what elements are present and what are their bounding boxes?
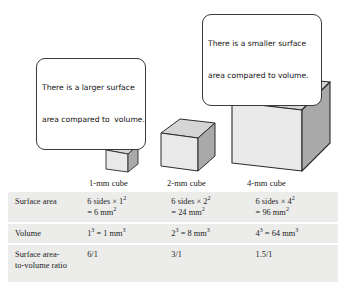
cell-exponent: 2	[123, 195, 126, 201]
cell-exponent: 2	[202, 206, 205, 212]
cell-exponent: 3	[295, 227, 298, 233]
cell-text: = 64 mm	[263, 229, 295, 238]
cell-exponent: 2	[292, 195, 295, 201]
cube-2mm	[158, 116, 218, 174]
cell-text: = 24 mm	[171, 208, 201, 217]
callout-left-line1: There is a larger surface	[42, 83, 140, 94]
cell-text: = 8 mm	[179, 229, 207, 238]
cell-text: 6 sides × 1	[87, 197, 123, 206]
cell-surface-area-1mm: 6 sides × 12 = 6 mm2	[87, 192, 171, 223]
cell-text: = 1 mm	[94, 229, 122, 238]
column-header-4mm-cube: 4-mm cube	[247, 178, 286, 188]
cell-text: 6 sides × 2	[171, 197, 207, 206]
cell-exponent: 2	[286, 206, 289, 212]
cube-1mm-front	[106, 150, 128, 172]
row-label-line2: to-volume ratio	[15, 261, 67, 270]
callout-right-line2: area compared to volume.	[208, 71, 316, 82]
column-header-2mm-cube: 2-mm cube	[167, 178, 206, 188]
cell-text: = 96 mm	[256, 208, 286, 217]
cube-2mm-front	[161, 133, 198, 171]
cell-volume-2mm: 23 = 8 mm3	[171, 223, 255, 244]
callout-larger-surface-area: There is a larger surface area compared …	[36, 58, 146, 150]
callout-right-line1: There is a smaller surface	[208, 39, 316, 50]
callout-left-line2: area compared to volume.	[42, 115, 140, 126]
surface-area-volume-figure: There is a larger surface area compared …	[0, 0, 348, 300]
row-label-sa-to-volume-ratio: Surface area- to-volume ratio	[8, 244, 87, 282]
cell-volume-4mm: 43 = 64 mm3	[256, 223, 338, 244]
cell-volume-1mm: 13 = 1 mm3	[87, 223, 171, 244]
cell-ratio-2mm: 3/1	[171, 244, 255, 282]
cell-exponent: 3	[123, 227, 126, 233]
row-label-volume: Volume	[8, 223, 87, 244]
cell-surface-area-4mm: 6 sides × 42 = 96 mm2	[256, 192, 338, 223]
cell-text: 6 sides × 4	[256, 197, 292, 206]
row-label-surface-area: Surface area	[8, 192, 87, 223]
cell-ratio-1mm: 6/1	[87, 244, 171, 282]
cell-exponent: 2	[113, 206, 116, 212]
cell-surface-area-2mm: 6 sides × 22 = 24 mm2	[171, 192, 255, 223]
cube-4mm-front	[232, 102, 302, 171]
cell-exponent: 2	[208, 195, 211, 201]
callout-smaller-surface-area: There is a smaller surface area compared…	[202, 14, 322, 106]
cube-measurements-table: Surface area 6 sides × 12 = 6 mm2 6 side…	[8, 192, 338, 282]
cell-ratio-4mm: 1.5/1	[256, 244, 338, 282]
cell-exponent: 3	[207, 227, 210, 233]
cell-text: = 6 mm	[87, 208, 113, 217]
table-row-sa-to-volume-ratio: Surface area- to-volume ratio 6/1 3/1 1.…	[8, 244, 338, 282]
table-row-volume: Volume 13 = 1 mm3 23 = 8 mm3 43 = 64 mm3	[8, 223, 338, 244]
row-label-line1: Surface area-	[15, 250, 59, 259]
table-row-surface-area: Surface area 6 sides × 12 = 6 mm2 6 side…	[8, 192, 338, 223]
column-header-1mm-cube: 1-mm cube	[89, 178, 128, 188]
